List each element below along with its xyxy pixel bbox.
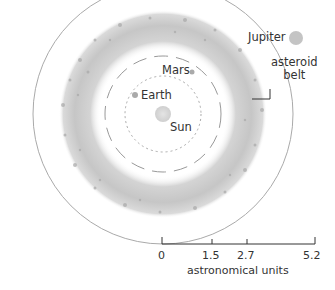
earth-planet xyxy=(132,92,138,98)
sun-label: Sun xyxy=(170,120,192,134)
scale-bar xyxy=(162,237,315,244)
asteroid-belt-label-line2: belt xyxy=(283,68,305,82)
scale-tick-3: 5.2 xyxy=(303,249,321,262)
jupiter-planet xyxy=(289,31,303,45)
earth-label: Earth xyxy=(141,88,172,102)
jupiter-label: Jupiter xyxy=(248,30,286,44)
mars-planet xyxy=(190,70,195,75)
asteroid-belt-label-line1: asteroid xyxy=(271,55,318,69)
mars-label: Mars xyxy=(162,63,190,77)
scale-tick-1: 1.5 xyxy=(202,249,220,262)
scale-tick-2: 2.7 xyxy=(237,249,255,262)
scale-tick-0: 0 xyxy=(158,249,165,262)
asteroid-belt-label: asteroid belt xyxy=(271,56,318,82)
scale-unit-label: astronomical units xyxy=(187,264,289,277)
sun xyxy=(155,106,171,122)
